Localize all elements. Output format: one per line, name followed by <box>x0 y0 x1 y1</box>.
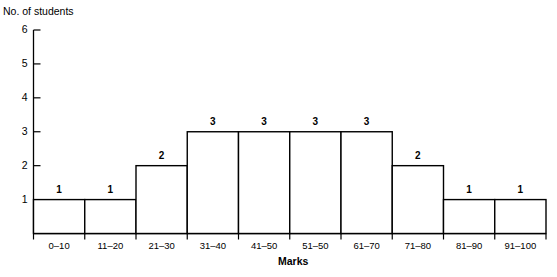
x-axis-tick-label: 81–90 <box>444 240 495 251</box>
bar <box>136 166 187 234</box>
bar-value-label: 1 <box>444 184 495 195</box>
plot-area <box>0 0 557 277</box>
x-axis-tick-label: 61–70 <box>341 240 392 251</box>
histogram-chart: No. of students 123456 0–1011–2021–3031–… <box>0 0 557 277</box>
x-axis-tick-label: 11–20 <box>85 240 136 251</box>
bar-value-label: 1 <box>85 184 136 195</box>
x-axis-tick-label: 0–10 <box>34 240 85 251</box>
bar <box>444 200 495 234</box>
bar <box>34 200 85 234</box>
bar <box>495 200 546 234</box>
bar-value-label: 1 <box>34 184 85 195</box>
x-axis-tick-label: 31–40 <box>187 240 238 251</box>
x-axis-title: Marks <box>0 255 557 267</box>
bar-value-label: 3 <box>341 116 392 127</box>
y-axis-tick-label: 6 <box>8 24 28 35</box>
x-axis-tick-label: 41–50 <box>239 240 290 251</box>
bar-value-label: 2 <box>392 150 443 161</box>
bar-value-label: 3 <box>239 116 290 127</box>
bar-value-label: 3 <box>290 116 341 127</box>
y-axis-tick-label: 5 <box>8 58 28 69</box>
y-axis-tick-label: 2 <box>8 160 28 171</box>
x-axis-tick-label: 51–50 <box>290 240 341 251</box>
bar <box>392 166 443 234</box>
bar <box>341 132 392 234</box>
bar-value-label: 3 <box>187 116 238 127</box>
bar-value-label: 2 <box>136 150 187 161</box>
bar <box>85 200 136 234</box>
bar <box>187 132 238 234</box>
y-axis-tick-label: 4 <box>8 92 28 103</box>
y-axis-tick-label: 1 <box>8 194 28 205</box>
bar-value-label: 1 <box>495 184 546 195</box>
x-axis-tick-label: 91–100 <box>495 240 546 251</box>
x-axis-tick-label: 21–30 <box>136 240 187 251</box>
bar <box>239 132 290 234</box>
y-axis-ticks <box>34 30 41 200</box>
y-axis-tick-label: 3 <box>8 126 28 137</box>
bar <box>290 132 341 234</box>
x-axis-tick-label: 71–80 <box>392 240 443 251</box>
